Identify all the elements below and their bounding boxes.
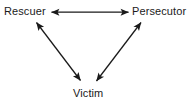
node-label-persecutor: Persecutor bbox=[132, 5, 186, 17]
edge-rescuer-victim bbox=[37, 23, 81, 81]
edge-persecutor-victim bbox=[97, 23, 142, 82]
node-label-victim: Victim bbox=[73, 87, 103, 99]
drama-triangle-diagram: Rescuer Persecutor Victim bbox=[0, 0, 188, 106]
node-label-rescuer: Rescuer bbox=[4, 5, 46, 17]
